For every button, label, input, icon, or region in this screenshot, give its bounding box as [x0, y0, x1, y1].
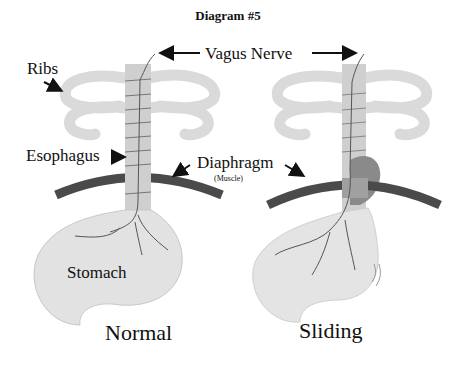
arrow-diaphragm-left: [175, 165, 190, 175]
sliding-panel: [253, 54, 440, 322]
arrow-diaphragm-right: [285, 165, 302, 175]
stomach-label: Stomach: [67, 263, 127, 283]
normal-caption: Normal: [105, 320, 172, 346]
esophagus-label: Esophagus: [26, 146, 100, 166]
diaphragm-label: Diaphragm: [197, 153, 273, 173]
sliding-caption: Sliding: [299, 318, 363, 344]
normal-panel: [34, 54, 222, 325]
stomach-sliding: [253, 208, 378, 322]
ribs-label: Ribs: [27, 59, 58, 79]
arrow-ribs: [44, 82, 60, 90]
vagus-nerve-label: Vagus Nerve: [205, 44, 292, 64]
diaphragm-note: (Muscle): [214, 174, 243, 183]
